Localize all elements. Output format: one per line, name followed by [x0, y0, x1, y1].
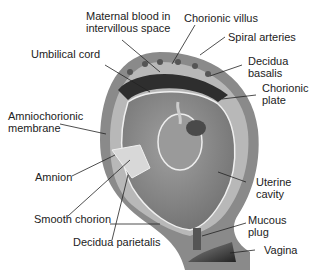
label-vagina: Vagina [264, 244, 297, 256]
label-decidua-parietalis: Decidua parietalis [73, 236, 160, 248]
label-maternal-blood: Maternal blood in intervillous space [86, 10, 170, 34]
label-umbilical-cord: Umbilical cord [31, 48, 100, 60]
mucous-plug [193, 228, 201, 250]
diagram-canvas: Maternal blood in intervillous space Cho… [0, 0, 316, 277]
label-spiral-arteries: Spiral arteries [228, 31, 296, 43]
label-amniochorionic-membrane: Amniochorionic membrane [8, 110, 83, 134]
label-uterine-cavity: Uterine cavity [256, 176, 291, 200]
label-chorionic-plate: Chorionic plate [262, 82, 308, 106]
label-smooth-chorion: Smooth chorion [34, 213, 111, 225]
label-mucous-plug: Mucous plug [248, 214, 287, 238]
label-chorionic-villus: Chorionic villus [184, 12, 258, 24]
label-amnion: Amnion [35, 171, 72, 183]
label-decidua-basalis: Decidua basalis [248, 55, 288, 79]
